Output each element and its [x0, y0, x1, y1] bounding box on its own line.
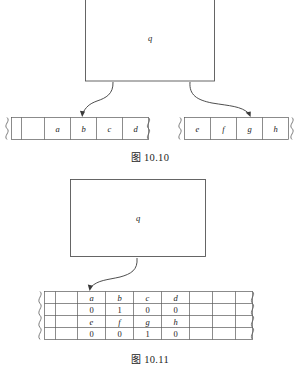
figure-1-caption-cjk: 图	[131, 152, 141, 163]
figure-root: q a b c d	[0, 0, 300, 366]
matrix-cell-a: a	[89, 293, 93, 303]
figure-2-caption-number: 10.11	[144, 354, 169, 365]
matrix-cell-r3c2: 0	[89, 329, 93, 339]
right-pointer-arrow-curve	[190, 82, 249, 114]
matrix-cell-c: c	[146, 293, 150, 303]
matrix-cell-e: e	[90, 317, 94, 327]
figure-canvas: q a b c d	[0, 0, 300, 366]
matrix-cell-h: h	[173, 317, 177, 327]
left-array-cell-a: a	[55, 124, 59, 134]
left-pointer-arrow-curve	[83, 82, 114, 114]
matrix-cell-r3c5: 0	[173, 329, 177, 339]
figure-2-caption: 图 10.11	[0, 351, 300, 366]
right-array-cell-g: g	[247, 124, 251, 134]
right-array-cell-e: e	[196, 124, 200, 134]
right-array: e f g h	[179, 118, 293, 140]
matrix-cell-g: g	[145, 317, 149, 327]
left-array-cell-b: b	[81, 124, 85, 134]
right-pointer-arrowhead-icon	[246, 111, 251, 117]
matrix-cell-r1c4: 0	[145, 305, 149, 315]
matrix-cell-b: b	[117, 293, 121, 303]
right-array-break-right-icon	[291, 118, 293, 140]
matrix-cell-r3c4: 1	[145, 329, 149, 339]
left-array-break-left-icon	[6, 118, 8, 140]
left-array-frame	[12, 118, 149, 140]
matrix-cell-r1c3: 1	[117, 305, 121, 315]
matrix-cell-r1c2: 0	[89, 305, 93, 315]
figure-1-group: q a b c d	[6, 0, 293, 140]
figure-2-caption-cjk: 图	[131, 354, 141, 365]
figure-1-caption: 图 10.10	[0, 149, 300, 164]
matrix-cell-r3c3: 0	[117, 329, 121, 339]
right-pointer-arrow	[190, 82, 251, 117]
matrix-table: a b c d 0 1 0 0 e f g h 0 0 1 0	[39, 292, 254, 340]
right-array-cell-h: h	[273, 124, 277, 134]
matrix-pointer-arrow	[88, 258, 137, 291]
figure-2-group: q a b c d	[39, 180, 254, 340]
left-pointer-arrow	[80, 82, 113, 117]
matrix-cell-r1c5: 0	[173, 305, 177, 315]
left-pointer-arrowhead-icon	[80, 111, 85, 117]
figure-1-caption-number: 10.10	[144, 152, 169, 163]
right-array-break-left-icon	[179, 118, 181, 140]
left-array-cell-c: c	[108, 124, 112, 134]
left-array: a b c d	[6, 118, 150, 140]
matrix-break-left-icon	[39, 292, 41, 340]
matrix-pointer-arrow-curve	[91, 258, 137, 287]
